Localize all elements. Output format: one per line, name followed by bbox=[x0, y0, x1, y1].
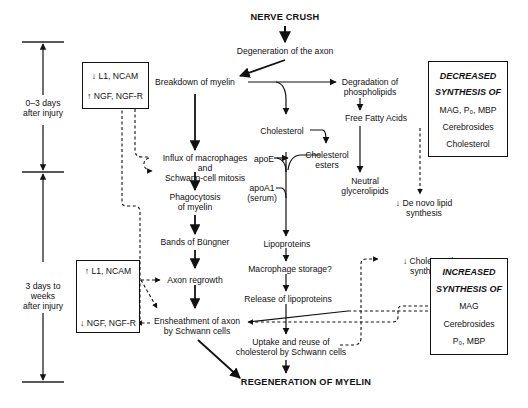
decreased-heading-2: SYNTHESIS OF bbox=[435, 87, 501, 97]
title-nerve-crush: NERVE CRUSH bbox=[251, 12, 320, 22]
node-neutral-glycerolipids: Neutral glycerolipids bbox=[341, 176, 388, 196]
early-l1-ncam: ↓ L1, NCAM bbox=[92, 71, 138, 81]
node-degeneration: Degeneration of the axon bbox=[237, 46, 334, 56]
node-macrophage-storage: Macrophage storage? bbox=[248, 264, 332, 274]
node-bands-of-bungner: Bands of Büngner bbox=[161, 237, 230, 247]
decreased-item: Cerebrosides bbox=[442, 122, 493, 132]
node-lipoproteins: Lipoproteins bbox=[264, 239, 311, 249]
outcome-regeneration: REGENERATION OF MYELIN bbox=[241, 377, 371, 387]
increased-synthesis-box: INCREASED SYNTHESIS OF MAG Cerebrosides … bbox=[430, 258, 508, 355]
node-degradation-phospholipids: Degradation of phospholipids bbox=[342, 77, 398, 97]
node-cholesterol: Cholesterol bbox=[260, 126, 303, 136]
increased-heading-1: INCREASED bbox=[442, 267, 495, 277]
node-phagocytosis: Phagocytosis of myelin bbox=[169, 192, 220, 212]
increased-item: Cerebrosides bbox=[443, 319, 494, 329]
node-ensheathment: Ensheathment of axon by Schwann cells bbox=[154, 316, 240, 336]
node-free-fatty-acids: Free Fatty Acids bbox=[345, 113, 407, 123]
late-ngf: ↓ NGF, NGF-R bbox=[80, 318, 136, 328]
node-influx: Influx of macrophages and Schwann-cell m… bbox=[163, 153, 248, 183]
early-ngf: ↑ NGF, NGF-R bbox=[87, 91, 143, 101]
node-de-novo-lipid-synthesis: ↓ De novo lipid synthesis bbox=[396, 198, 452, 218]
decreased-item: Cholesterol bbox=[446, 139, 489, 149]
node-apoe: apoE bbox=[254, 154, 274, 164]
increased-item: MAG bbox=[459, 301, 479, 311]
increased-heading-2: SYNTHESIS OF bbox=[436, 284, 502, 294]
timeline-phase2-label: 3 days to weeks after injury bbox=[23, 281, 63, 311]
late-molecule-box: ↑ L1, NCAM ↓ NGF, NGF-R bbox=[76, 260, 140, 333]
node-axon-regrowth: Axon regrowth bbox=[167, 275, 222, 285]
early-molecule-box: ↓ L1, NCAM ↑ NGF, NGF-R bbox=[82, 62, 149, 109]
node-uptake-reuse: Uptake and reuse of cholesterol by Schwa… bbox=[236, 337, 346, 357]
timeline bbox=[22, 42, 64, 382]
increased-item: P₀, MBP bbox=[453, 336, 486, 346]
late-l1-ncam: ↑ L1, NCAM bbox=[85, 266, 131, 276]
timeline-phase1-label: 0–3 days after injury bbox=[23, 98, 63, 118]
node-release-lipoproteins: Release of lipoproteins bbox=[244, 294, 331, 304]
decreased-synthesis-box: DECREASED SYNTHESIS OF MAG, P₀, MBP Cere… bbox=[428, 61, 508, 157]
decreased-heading-1: DECREASED bbox=[440, 71, 497, 81]
node-apoa1: apoA1 (serum) bbox=[247, 183, 277, 203]
decreased-item: MAG, P₀, MBP bbox=[439, 105, 496, 115]
node-cholesterol-esters: Cholesterol esters bbox=[305, 150, 348, 170]
node-breakdown: Breakdown of myelin bbox=[155, 77, 235, 87]
diagram-canvas: NERVE CRUSH 0–3 days after injury 3 days… bbox=[0, 0, 528, 408]
